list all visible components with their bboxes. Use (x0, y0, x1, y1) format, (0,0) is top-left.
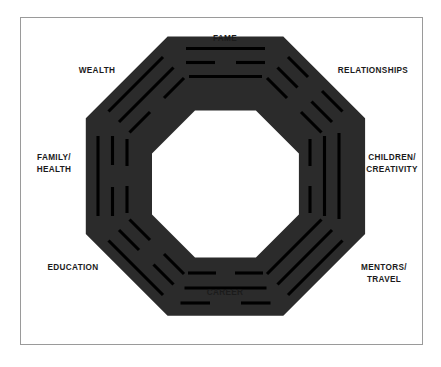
sector-label-children-creativity: CHILDREN/ CREATIVITY (348, 152, 436, 175)
sector-label-relationships: RELATIONSHIPS (318, 65, 428, 77)
sector-label-mentors-travel: MENTORS/ TRAVEL (340, 262, 428, 285)
sector-label-fame: FAME (186, 33, 264, 45)
sector-label-wealth: WEALTH (58, 65, 136, 77)
bagua-diagram-page: FAME RELATIONSHIPS CHILDREN/ CREATIVITY … (0, 0, 441, 367)
sector-label-family-health: FAMILY/ HEALTH (20, 152, 88, 175)
sector-label-career: CAREER (186, 287, 264, 299)
bagua-octagon-svg (0, 0, 441, 367)
sector-label-education: EDUCATION (28, 262, 118, 274)
bagua-octagon-graphic (0, 0, 441, 367)
